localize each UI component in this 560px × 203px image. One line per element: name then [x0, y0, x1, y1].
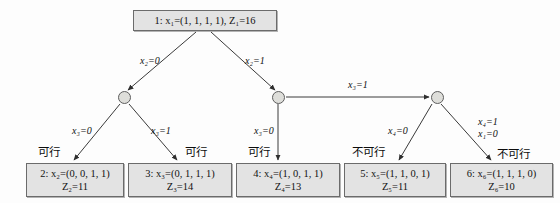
circle-node-right[interactable] [431, 91, 444, 104]
node-2-objective: Z₂=11 [62, 180, 88, 193]
edge-label-left-branch-0: x₃=0 [72, 125, 92, 136]
node-box-4[interactable]: 4: x₄=(1, 0, 1, 1) Z₄=13 [236, 163, 340, 197]
edge-label-mid-down: x₃=0 [254, 125, 274, 136]
node-5-objective: Z₅=11 [382, 180, 408, 193]
node-5-label: 5: x₅=(1, 1, 0, 1) [360, 167, 429, 180]
node-6-label: 6: x₆=(1, 1, 1, 0) [467, 167, 536, 180]
node-3-label: 3: x₃=(0, 1, 1, 1) [145, 167, 214, 180]
node-box-3[interactable]: 3: x₃=(0, 1, 1, 1) Z₃=14 [128, 163, 232, 197]
edge-label-right-branch-0: x₄=0 [388, 125, 408, 136]
node-box-5[interactable]: 5: x₅=(1, 1, 0, 1) Z₅=11 [344, 163, 446, 197]
enumeration-tree-figure: 1: x₁=(1, 1, 1, 1), Z₁=16 x₂=0 x₂=1 x₃=1… [0, 0, 560, 203]
edge-label-right-branch-1a: x₄=1 [478, 116, 498, 127]
edge-label-right-branch-1b: x₁=0 [478, 128, 498, 139]
edge-label-left-branch-1: x₃=1 [151, 125, 171, 136]
circle-node-middle[interactable] [272, 91, 285, 104]
node-box-1[interactable]: 1: x₁=(1, 1, 1, 1), Z₁=16 [133, 10, 277, 31]
edge-label-root-right: x₂=1 [245, 55, 265, 66]
node-3-objective: Z₃=14 [167, 180, 194, 193]
status-label-node4: 可行 [248, 143, 270, 159]
edge-label-root-left: x₂=0 [140, 55, 160, 66]
edge-root-to-left-circle [128, 32, 196, 90]
status-label-node6: 不可行 [497, 145, 530, 161]
node-4-objective: Z₄=13 [275, 180, 302, 193]
circle-node-left[interactable] [118, 91, 131, 104]
node-box-6[interactable]: 6: x₆=(1, 1, 1, 0) Z₆=10 [450, 163, 553, 197]
node-box-2[interactable]: 2: x₂=(0, 0, 1, 1) Z₂=11 [26, 163, 124, 197]
node-4-label: 4: x₄=(1, 0, 1, 1) [253, 167, 322, 180]
edge-label-mid-to-right: x₃=1 [348, 79, 368, 90]
node-6-objective: Z₆=10 [488, 180, 515, 193]
edge-root-to-middle-circle [211, 32, 275, 90]
status-label-node2: 可行 [38, 143, 60, 159]
node-2-label: 2: x₂=(0, 0, 1, 1) [40, 167, 109, 180]
status-label-node3: 可行 [185, 143, 207, 159]
node-1-label: 1: x₁=(1, 1, 1, 1), Z₁=16 [154, 14, 255, 27]
status-label-node5: 不可行 [352, 143, 385, 159]
